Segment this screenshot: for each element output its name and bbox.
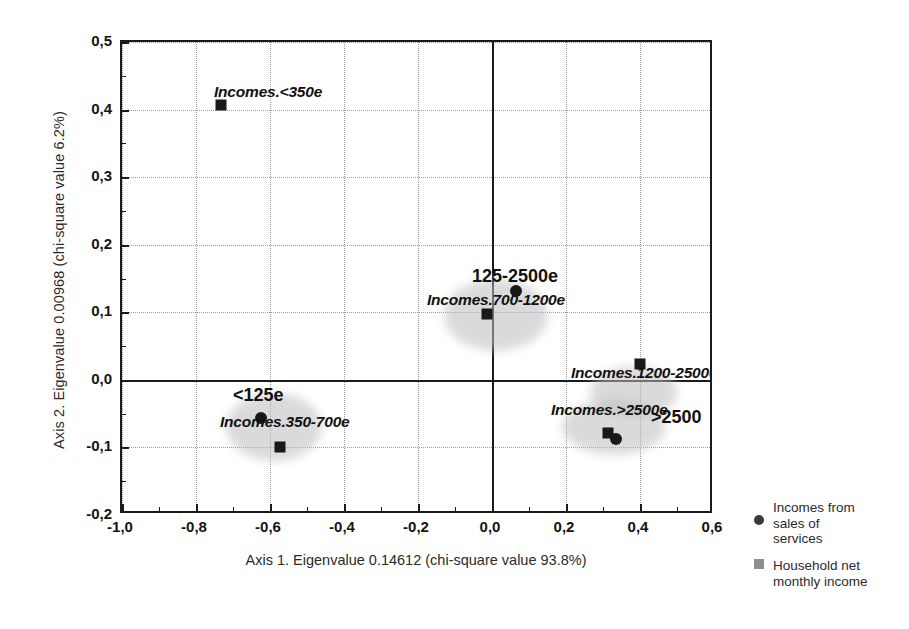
square-data-point (602, 427, 613, 438)
data-point-label: Incomes.700-1200e (427, 292, 565, 308)
legend: Incomes from sales of services Household… (752, 500, 902, 600)
x-tick (233, 507, 234, 511)
y-tick (122, 110, 129, 112)
square-data-point (215, 99, 226, 110)
legend-line-1: Household net (773, 558, 860, 573)
y-tick (122, 414, 126, 415)
gridline-vertical (344, 42, 345, 511)
gridline-vertical (418, 42, 419, 511)
x-tick (270, 504, 272, 511)
x-tick (677, 507, 678, 511)
x-tick-label: 0,4 (628, 518, 649, 535)
y-tick (122, 76, 126, 77)
legend-line-2: monthly income (773, 574, 868, 589)
legend-label-household: Household net monthly income (773, 558, 868, 589)
data-point-label: >2500 (651, 408, 702, 426)
gridline-vertical (270, 42, 271, 511)
x-tick (418, 504, 420, 511)
gridline-horizontal (122, 447, 710, 448)
y-tick (122, 42, 129, 44)
x-tick-label: 0,6 (702, 518, 723, 535)
y-tick (122, 380, 129, 382)
plot-area: Incomes.<350e125-2500eIncomes.700-1200e<… (120, 40, 712, 513)
data-point-label: Incomes.350-700e (220, 414, 350, 430)
gridline-vertical (566, 42, 567, 511)
data-point-label: 125-2500e (472, 267, 558, 285)
y-tick (122, 211, 126, 212)
point-halo (444, 279, 548, 351)
legend-line-1: Incomes from (773, 500, 855, 515)
legend-item-household: Household net monthly income (752, 558, 902, 589)
square-data-point (275, 442, 286, 453)
legend-line-3: services (773, 531, 823, 546)
x-axis-title: Axis 1. Eigenvalue 0.14612 (chi-square v… (120, 552, 712, 568)
y-tick (122, 177, 129, 179)
legend-item-services: Incomes from sales of services (752, 500, 902, 547)
y-tick (122, 447, 129, 449)
legend-line-2: sales of (773, 516, 820, 531)
x-tick (566, 504, 568, 511)
y-axis-title: Axis 2. Eigenvalue 0.00968 (chi-square v… (51, 45, 67, 515)
y-tick-label: 0,3 (66, 167, 112, 184)
y-tick-label: 0,5 (66, 32, 112, 49)
x-tick-label: -0,6 (255, 518, 281, 535)
x-tick (159, 507, 160, 511)
y-tick (122, 346, 126, 347)
gridline-horizontal (122, 42, 710, 43)
gridline-vertical (122, 42, 123, 511)
x-tick-label: -0,4 (329, 518, 355, 535)
circle-marker-icon (752, 515, 766, 525)
y-tick (122, 279, 126, 280)
x-tick-label: -0,8 (181, 518, 207, 535)
x-tick (603, 507, 604, 511)
gridline-horizontal (122, 110, 710, 111)
x-tick (640, 504, 642, 511)
x-tick (492, 504, 494, 511)
y-tick (122, 312, 129, 314)
x-tick-label: 0,2 (554, 518, 575, 535)
data-point-label: Incomes.1200-2500e (571, 365, 712, 381)
gridline-vertical (640, 42, 641, 511)
data-point-label: <125e (233, 386, 284, 404)
x-tick (344, 504, 346, 511)
x-tick (381, 507, 382, 511)
y-tick-label: -0,2 (66, 505, 112, 522)
x-tick (122, 504, 124, 511)
gridline-horizontal (122, 245, 710, 246)
x-tick (455, 507, 456, 511)
x-tick (307, 507, 308, 511)
x-tick-label: 0,0 (480, 518, 501, 535)
y-tick-label: 0,1 (66, 302, 112, 319)
x-tick (196, 504, 198, 511)
y-tick-label: 0,2 (66, 234, 112, 251)
y-tick (122, 481, 126, 482)
gridline-horizontal (122, 312, 710, 313)
y-tick-label: -0,1 (66, 437, 112, 454)
gridline-horizontal (122, 177, 710, 178)
x-tick (529, 507, 530, 511)
y-tick (122, 143, 126, 144)
y-tick-label: 0,0 (66, 369, 112, 386)
square-data-point (482, 308, 493, 319)
x-tick-label: -0,2 (403, 518, 429, 535)
y-tick-label: 0,4 (66, 99, 112, 116)
data-point-label: Incomes.<350e (214, 84, 322, 100)
y-tick (122, 245, 129, 247)
gridline-vertical (196, 42, 197, 511)
square-marker-icon (752, 559, 766, 569)
legend-label-services: Incomes from sales of services (773, 500, 855, 547)
